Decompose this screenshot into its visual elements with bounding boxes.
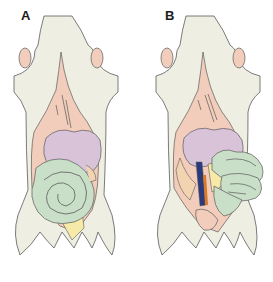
ear-right-a <box>91 48 103 68</box>
ear-left-a <box>19 48 31 68</box>
ear-left-b <box>161 48 173 68</box>
panel-b-illustration <box>156 16 263 255</box>
panel-a-illustration <box>14 16 118 255</box>
anatomy-diagram <box>0 0 273 282</box>
ear-right-b <box>233 48 245 68</box>
